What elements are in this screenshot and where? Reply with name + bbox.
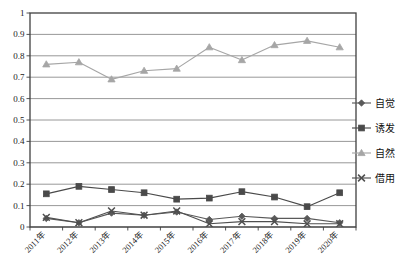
y-axis-tick-label: 0 bbox=[20, 222, 25, 232]
y-axis-tick-label: 0.2 bbox=[13, 179, 24, 189]
y-axis-tick-label: 1 bbox=[20, 8, 25, 18]
data-point-marker bbox=[141, 190, 147, 196]
data-point-marker bbox=[75, 59, 82, 65]
x-axis-tick-label: 2017年 bbox=[218, 229, 243, 254]
x-axis-tick-label: 2019年 bbox=[283, 229, 308, 254]
legend-item[interactable]: 借用 bbox=[352, 173, 395, 184]
series-line bbox=[46, 41, 339, 80]
square-marker-icon bbox=[359, 125, 365, 131]
data-point-marker bbox=[206, 195, 212, 201]
x-axis-tick-label: 2014年 bbox=[120, 229, 145, 254]
y-axis-tick-label: 0.8 bbox=[13, 51, 25, 61]
y-axis-tick-label: 0.3 bbox=[13, 158, 25, 168]
x-axis: 2011年2012年2013年2014年2015年2016年2017年2018年… bbox=[22, 227, 356, 255]
chart-legend: 自觉诱发自然借用 bbox=[352, 97, 395, 184]
data-series bbox=[43, 208, 343, 228]
legend-item[interactable]: 自觉 bbox=[352, 97, 395, 109]
line-chart: 10.90.80.70.60.50.40.30.20.102011年2012年2… bbox=[0, 0, 420, 270]
x-axis-tick-label: 2013年 bbox=[87, 229, 112, 254]
y-axis-tick-label: 0.6 bbox=[13, 94, 25, 104]
data-point-marker bbox=[206, 44, 213, 50]
data-point-marker bbox=[43, 191, 49, 197]
legend-item-label: 自然 bbox=[375, 147, 395, 159]
y-axis-tick-label: 0.9 bbox=[13, 29, 25, 39]
data-point-marker bbox=[174, 196, 180, 202]
data-point-marker bbox=[43, 215, 49, 221]
x-axis-tick-label: 2012年 bbox=[55, 229, 80, 254]
x-axis-tick-label: 2016年 bbox=[185, 229, 210, 254]
series-line bbox=[46, 186, 339, 206]
data-point-marker bbox=[337, 190, 343, 196]
legend-item-label: 借用 bbox=[375, 173, 395, 184]
y-axis-tick-label: 0.7 bbox=[13, 72, 25, 82]
data-point-marker bbox=[337, 220, 343, 226]
x-axis-tick-label: 2011年 bbox=[22, 229, 47, 254]
data-point-marker bbox=[76, 183, 82, 189]
x-axis-tick-label: 2015年 bbox=[153, 229, 178, 254]
x-axis-tick-label: 2018年 bbox=[250, 229, 275, 254]
y-axis-tick-label: 0.5 bbox=[13, 115, 25, 125]
legend-item-label: 自觉 bbox=[375, 97, 395, 109]
diamond-marker-icon bbox=[358, 100, 364, 106]
data-series bbox=[43, 37, 344, 82]
x-axis-tick-label: 2020年 bbox=[316, 229, 341, 254]
data-point-marker bbox=[173, 65, 180, 71]
series-line bbox=[46, 211, 339, 224]
data-point-marker bbox=[304, 37, 311, 43]
legend-item-label: 诱发 bbox=[375, 122, 395, 134]
y-axis-tick-label: 0.1 bbox=[13, 201, 24, 211]
chart-canvas: 10.90.80.70.60.50.40.30.20.102011年2012年2… bbox=[0, 0, 420, 270]
y-axis-tick-label: 0.4 bbox=[13, 136, 25, 146]
data-point-marker bbox=[272, 194, 278, 200]
series-layer bbox=[43, 37, 344, 227]
data-point-marker bbox=[109, 187, 115, 193]
legend-item[interactable]: 自然 bbox=[352, 147, 395, 159]
data-point-marker bbox=[304, 204, 310, 210]
legend-item[interactable]: 诱发 bbox=[352, 122, 395, 134]
data-point-marker bbox=[239, 189, 245, 195]
